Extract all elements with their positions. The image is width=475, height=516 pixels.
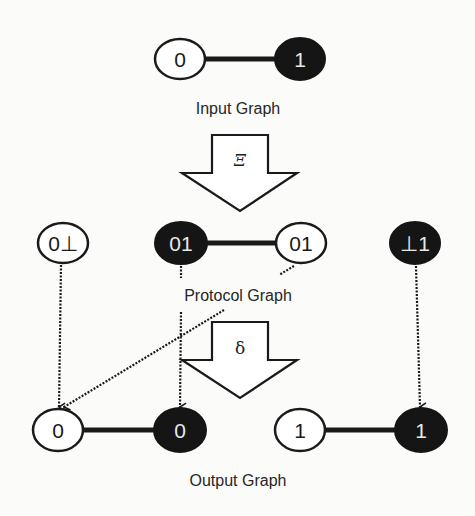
output-node-0-open: 0 xyxy=(33,409,83,451)
mapping-01open-to-0 xyxy=(64,310,224,407)
delta-transform-arrow: δ xyxy=(182,322,297,398)
output-graph-label: Output Graph xyxy=(190,472,287,489)
mapping-bot1-to-1 xyxy=(416,266,420,407)
output-node-1-filled: 1 xyxy=(395,408,447,452)
node-label: 0 xyxy=(174,419,186,442)
protocol-graph-label: Protocol Graph xyxy=(184,287,292,304)
output-node-1-open: 1 xyxy=(275,409,325,451)
node-label: 01 xyxy=(169,232,192,255)
input-node-1: 1 xyxy=(275,38,325,80)
diagram-canvas: 0 1 Input Graph Ξ 0⊥ 01 01 ⊥1 Protocol xyxy=(0,0,475,516)
input-graph-label: Input Graph xyxy=(196,100,281,117)
xi-symbol: Ξ xyxy=(233,150,247,170)
protocol-node-0bot: 0⊥ xyxy=(38,223,88,263)
node-label: 1 xyxy=(294,419,306,442)
input-graph: 0 1 Input Graph xyxy=(155,38,325,117)
protocol-graph: 0⊥ 01 01 ⊥1 Protocol Graph xyxy=(38,222,440,304)
protocol-node-01-filled: 01 xyxy=(155,222,207,264)
node-label: 0⊥ xyxy=(48,232,78,255)
delta-symbol: δ xyxy=(235,338,245,358)
node-label: ⊥1 xyxy=(400,232,430,255)
mapping-0bot-to-0 xyxy=(59,265,61,407)
node-label: 01 xyxy=(289,232,312,255)
protocol-node-01-open: 01 xyxy=(276,223,326,263)
block-arrow-down-icon xyxy=(182,322,297,398)
node-label: 1 xyxy=(415,419,427,442)
node-label: 1 xyxy=(294,48,306,71)
output-node-0-filled: 0 xyxy=(154,408,206,452)
block-arrow-down-icon xyxy=(182,135,297,211)
node-label: 0 xyxy=(174,48,186,71)
mapping-01open-to-0-part1 xyxy=(279,266,294,275)
output-graph: 0 0 1 1 Output Graph xyxy=(33,408,447,489)
input-node-0: 0 xyxy=(155,39,205,79)
protocol-node-bot1: ⊥1 xyxy=(390,222,440,264)
node-label: 0 xyxy=(52,419,64,442)
xi-transform-arrow: Ξ xyxy=(182,135,297,211)
